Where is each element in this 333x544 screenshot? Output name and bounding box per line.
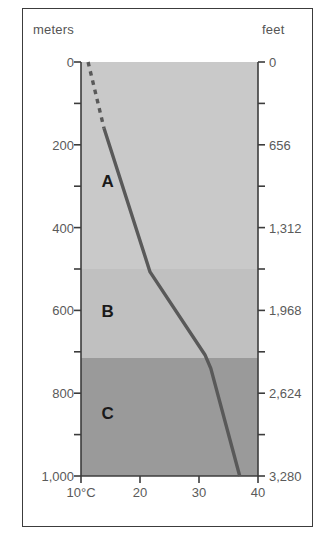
plot-canvas: [0, 0, 333, 544]
band-label-b: B: [101, 302, 113, 322]
bottom-tick-label-20: 20: [133, 486, 147, 499]
bottom-tick-label-30: 30: [192, 486, 206, 499]
left-tick-label-200: 200: [26, 138, 74, 151]
right-tick-label-0: 0: [269, 56, 276, 69]
depth-band-a: [81, 62, 258, 269]
left-tick-label-800: 800: [26, 387, 74, 400]
band-label-a: A: [101, 172, 113, 192]
left-tick-label-0: 0: [26, 56, 74, 69]
bottom-tick-label-10: 10°C: [66, 486, 95, 499]
left-tick-label-600: 600: [26, 304, 74, 317]
left-tick-label-1000: 1,000: [26, 470, 74, 483]
left-tick-label-400: 400: [26, 221, 74, 234]
right-tick-label-2624: 2,624: [269, 387, 302, 400]
bottom-tick-label-40: 40: [251, 486, 265, 499]
right-tick-label-656: 656: [269, 138, 291, 151]
right-tick-label-3280: 3,280: [269, 470, 302, 483]
band-label-c: C: [101, 404, 113, 424]
right-tick-label-1312: 1,312: [269, 221, 302, 234]
depth-temperature-profile-figure: meters feet 02004006008001,000 06561,312…: [0, 0, 333, 544]
right-tick-label-1968: 1,968: [269, 304, 302, 317]
